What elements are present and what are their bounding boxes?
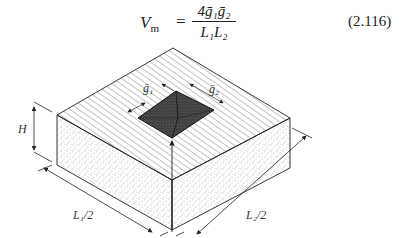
l1-half-label: L₁/2 xyxy=(72,208,93,222)
l2-half-label: L₂/2 xyxy=(245,208,266,222)
g1-label: ḡ₁ xyxy=(143,81,153,95)
height-label: H xyxy=(17,122,28,136)
block-diagram: H ḡ₁ ḡ₂ L₁/2 L₂/2 xyxy=(0,0,411,238)
g2-label: ḡ₂ xyxy=(209,82,219,96)
